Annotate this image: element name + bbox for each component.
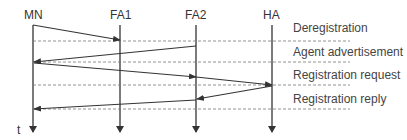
time-axis-label: t — [17, 123, 21, 137]
arrow-registration-request-fa2-ha — [196, 77, 272, 85]
arrow-registration-request-mn-fa2 — [34, 63, 196, 77]
message-label-agent-advertisement: Agent advertisement — [293, 45, 404, 59]
message-label-deregistration: Deregistration — [293, 21, 368, 35]
entity-label-fa2: FA2 — [185, 8, 207, 22]
arrow-registration-reply-ha-fa2 — [197, 86, 272, 99]
message-label-registration-reply: Registration reply — [293, 92, 386, 106]
arrow-deregistration — [33, 25, 120, 40]
arrow-agent-advertisement — [34, 46, 196, 62]
arrow-registration-reply-fa2-mn — [34, 100, 196, 109]
message-label-registration-request: Registration request — [293, 68, 401, 82]
mobile-ip-sequence-diagram: MN FA1 FA2 HA Deregistration Agent adver… — [0, 0, 407, 140]
entity-label-fa1: FA1 — [110, 8, 132, 22]
entity-label-mn: MN — [24, 8, 43, 22]
entity-label-ha: HA — [263, 8, 280, 22]
